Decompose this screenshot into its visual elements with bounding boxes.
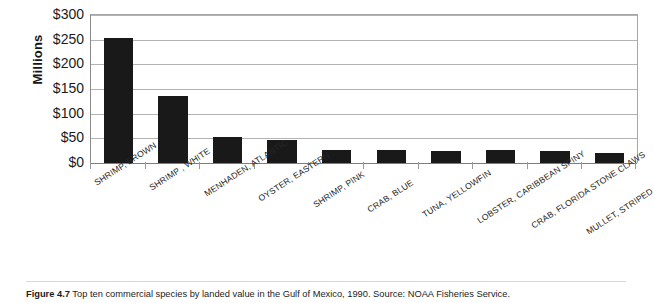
plot-area xyxy=(90,14,638,163)
x-axis-label: SHRIMP, PINK xyxy=(312,169,366,209)
caption-divider xyxy=(26,281,626,282)
y-axis-tick-label: $200 xyxy=(24,56,84,70)
y-axis-tick-label: $300 xyxy=(24,7,84,21)
y-axis-tick-label: $50 xyxy=(24,130,84,144)
bars-layer xyxy=(91,15,637,163)
y-axis-tick-labels: $0$50$100$150$200$250$300 xyxy=(24,0,84,180)
y-axis-tick-label: $150 xyxy=(24,81,84,95)
figure-caption: Figure 4.7 Top ten commercial species by… xyxy=(26,288,644,300)
x-axis-category-labels: SHRIMP, BROWNSHRIMP , WHITEMENHADEN, ATL… xyxy=(0,168,651,278)
bar xyxy=(104,38,133,163)
y-axis-tick-label: $0 xyxy=(24,155,84,169)
caption-figure-number: Figure 4.7 xyxy=(26,289,70,299)
y-axis-tick-label: $100 xyxy=(24,106,84,120)
y-axis-tick-label: $250 xyxy=(24,32,84,46)
x-axis-label: MULLET, STRIPED xyxy=(585,187,654,237)
bar xyxy=(158,96,187,163)
bar xyxy=(213,137,242,163)
caption-body: Top ten commercial species by landed val… xyxy=(72,289,510,299)
x-axis-label: CRAB, BLUE xyxy=(366,178,415,214)
